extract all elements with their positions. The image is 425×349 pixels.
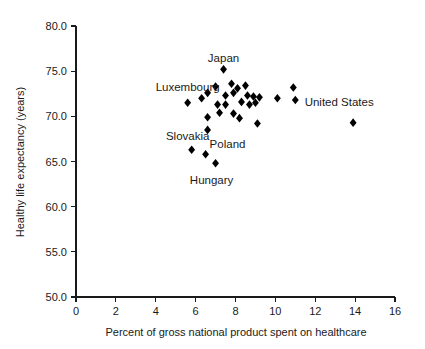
x-tick-label: 2 (113, 305, 119, 317)
x-tick-label: 0 (73, 305, 79, 317)
point-annotation-label: Poland (210, 138, 246, 150)
data-point (350, 118, 357, 127)
data-point (184, 98, 191, 107)
data-point (204, 113, 211, 122)
data-point (236, 114, 243, 123)
data-point (188, 145, 195, 154)
x-axis-title: Percent of gross national product spent … (105, 326, 366, 338)
point-annotation-label: Hungary (190, 174, 234, 186)
data-point (202, 150, 209, 159)
annotations-group: JapanLuxembourgSlovakiaPolandHungaryUnit… (156, 52, 374, 187)
data-point (292, 96, 299, 105)
data-point (274, 94, 281, 103)
x-tick-label: 10 (269, 305, 281, 317)
point-annotation-label: Luxembourg (156, 81, 220, 93)
y-tick-label: 60.0 (46, 201, 67, 213)
axes-group (76, 26, 395, 297)
data-point (244, 91, 251, 100)
data-point (228, 80, 235, 89)
data-point (198, 94, 205, 103)
data-point (242, 81, 249, 90)
y-tick-label: 70.0 (46, 110, 67, 122)
y-axis-title: Healthy life expectancy (years) (14, 87, 26, 237)
point-annotation-label: Japan (208, 52, 239, 64)
x-tick-label: 8 (232, 305, 238, 317)
point-annotation-label: Slovakia (166, 130, 210, 142)
data-point (214, 100, 221, 109)
y-tick-label: 50.0 (46, 291, 67, 303)
x-tick-label: 12 (309, 305, 321, 317)
data-point (256, 93, 263, 102)
tick-labels-group: 50.055.060.065.070.075.080.0024681012141… (46, 20, 402, 317)
x-tick-label: 16 (389, 305, 401, 317)
x-tick-label: 4 (153, 305, 159, 317)
data-point (246, 100, 253, 109)
data-point (220, 65, 227, 74)
scatter-plot: 50.055.060.065.070.075.080.0024681012141… (0, 0, 425, 349)
data-point (290, 83, 297, 92)
data-point (222, 91, 229, 100)
y-tick-label: 75.0 (46, 65, 67, 77)
y-tick-label: 80.0 (46, 20, 67, 32)
y-tick-label: 65.0 (46, 156, 67, 168)
point-annotation-label: United States (305, 96, 374, 108)
tick-marks-group (71, 26, 395, 302)
x-tick-label: 14 (349, 305, 361, 317)
data-point (222, 100, 229, 109)
data-point (230, 109, 237, 118)
data-point (254, 119, 261, 128)
data-point (238, 98, 245, 107)
y-tick-label: 55.0 (46, 246, 67, 258)
data-point (212, 159, 219, 168)
data-point (216, 108, 223, 117)
scatter-chart-container: 50.055.060.065.070.075.080.0024681012141… (0, 0, 425, 349)
x-tick-label: 6 (193, 305, 199, 317)
